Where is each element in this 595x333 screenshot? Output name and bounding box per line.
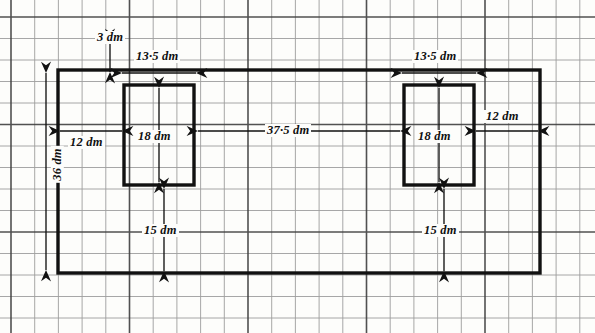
dimension-label-left-cutout-height: 18 dm xyxy=(136,130,173,143)
dimension-label-top-offset: 3 dm xyxy=(95,31,125,44)
dimension-lines xyxy=(46,40,538,271)
technical-drawing xyxy=(0,0,595,333)
dimension-label-plate-height: 36 dm xyxy=(51,146,64,183)
dimension-label-left-cutout-width: 13·5 dm xyxy=(134,50,180,63)
diagram-canvas: 3 dm13·5 dm13·5 dm12 dm12 dm18 dm18 dm37… xyxy=(0,0,595,333)
grid-major-lines xyxy=(0,0,595,333)
dimension-label-right-cutout-height: 18 dm xyxy=(416,130,453,143)
grid-minor-lines xyxy=(0,0,595,333)
dimension-label-left-edge-gap: 12 dm xyxy=(68,136,105,149)
dimension-label-right-edge-gap: 12 dm xyxy=(484,110,521,123)
dimension-label-right-cutout-width: 13·5 dm xyxy=(412,50,458,63)
dimension-label-left-bottom-gap: 15 dm xyxy=(142,224,179,237)
dimension-label-right-bottom-gap: 15 dm xyxy=(422,224,459,237)
dimension-label-cutout-spacing: 37·5 dm xyxy=(265,124,311,137)
